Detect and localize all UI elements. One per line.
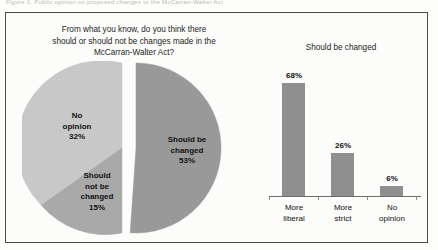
pie-title-line-1: From what you know, do you think there <box>62 25 207 34</box>
pie-label-should-be-line-2: changed <box>171 146 204 155</box>
figure-frame: From what you know, do you think there s… <box>5 12 428 243</box>
pie-slice-label-no-opinion: No opinion 32% <box>48 111 106 143</box>
pie-label-no-opinion-line-1: No <box>72 111 83 120</box>
x-axis-tick-0 <box>269 197 270 200</box>
pie-slice-label-should-not-be-changed: Should not be changed 15% <box>68 171 126 213</box>
pie-chart-panel: From what you know, do you think there s… <box>6 13 261 244</box>
pie-label-should-be-value: 53% <box>179 156 195 165</box>
bar-value-label-more-liberal: 68% <box>274 71 314 80</box>
pie-label-should-not-line-3: changed <box>81 192 114 201</box>
cat-1-line-1: More <box>321 203 365 214</box>
pie-label-should-not-line-1: Should <box>83 171 110 180</box>
pie-label-no-opinion-line-2: opinion <box>63 122 92 131</box>
bar-rect-more-strict <box>331 153 354 196</box>
x-axis-category-label-more-strict: More strict <box>321 203 365 224</box>
cat-0-line-2: liberal <box>272 214 316 225</box>
pie-slice-label-should-be-changed: Should be changed 53% <box>152 135 222 167</box>
cat-0-line-1: More <box>272 203 316 214</box>
bar-chart-title: Should be changed <box>261 43 421 52</box>
pie-label-no-opinion-value: 32% <box>69 132 85 141</box>
bar-value-label-no-opinion: 6% <box>372 174 412 183</box>
pie-title-line-2: should or should not be changes made in … <box>52 37 215 46</box>
cat-1-line-2: strict <box>321 214 365 225</box>
bar-rect-more-liberal <box>282 83 305 196</box>
x-axis-tick-3 <box>416 197 417 200</box>
figure-caption: Figure 1. Public opinion on proposed cha… <box>6 0 306 7</box>
figure-root: Figure 1. Public opinion on proposed cha… <box>0 0 438 250</box>
x-axis-category-label-more-liberal: More liberal <box>272 203 316 224</box>
x-axis-tick-2 <box>367 197 368 200</box>
x-axis-tick-1 <box>318 197 319 200</box>
pie-label-should-be-line-1: Should be <box>168 135 207 144</box>
bar-column-more-liberal: 68% <box>274 71 314 196</box>
bar-chart-panel: Should be changed 68% 26% 6% <box>261 13 429 244</box>
cat-2-line-2: opinion <box>370 214 414 225</box>
bar-chart-x-axis-line <box>269 196 421 197</box>
x-axis-category-label-no-opinion: No opinion <box>370 203 414 224</box>
pie-label-should-not-line-2: not be <box>85 182 109 191</box>
bar-chart-plot-area: 68% 26% 6% <box>269 71 421 196</box>
bar-rect-no-opinion <box>380 186 403 196</box>
pie-chart-title: From what you know, do you think there s… <box>16 24 252 59</box>
bar-value-label-more-strict: 26% <box>323 141 363 150</box>
bar-column-no-opinion: 6% <box>372 71 412 196</box>
bar-column-more-strict: 26% <box>323 71 363 196</box>
pie-label-should-not-value: 15% <box>89 203 105 212</box>
pie-title-line-3: McCarran-Walter Act? <box>94 48 174 57</box>
cat-2-line-1: No <box>370 203 414 214</box>
